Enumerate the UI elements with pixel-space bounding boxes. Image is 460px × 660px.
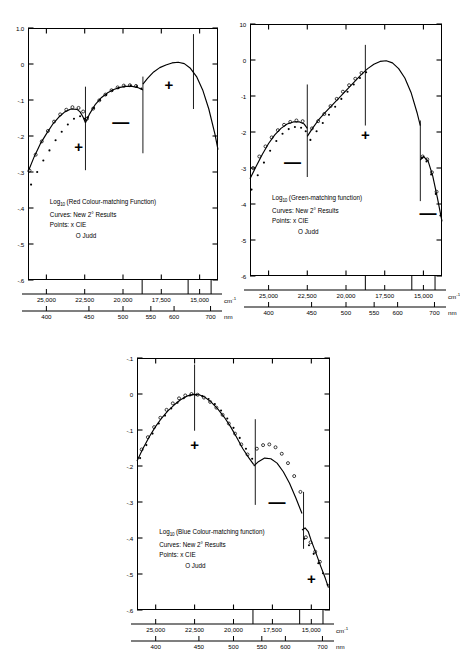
x-axis-secondary-label: 500 (228, 643, 238, 650)
caption-points-cie: x CIE (180, 551, 195, 558)
y-axis-tick-label: -.6 (113, 607, 133, 614)
polarity-marker: + (190, 437, 199, 452)
y-axis-tick-label: 0 (113, 391, 133, 398)
x-axis-primary-label: 17,500 (263, 626, 282, 633)
caption-log-prefix: Log (159, 528, 170, 535)
caption-curves-line: Curves: New 2° Results (159, 540, 264, 551)
x-axis-primary-label: 20,000 (224, 626, 243, 633)
caption-points-judd-line: O Judd (159, 561, 264, 572)
plot-frame-blue (137, 358, 330, 610)
x-axis-secondary-label: 450 (194, 643, 204, 650)
x-axis-secondary-unit: nm (336, 643, 345, 650)
x-axis-primary-unit-exponent: -1 (344, 626, 348, 631)
caption-curves-label: Curves: (159, 541, 182, 548)
caption-function-name: (Blue Colour-matching function) (174, 528, 264, 535)
x-axis-primary-unit-exponent: -1 (456, 292, 460, 297)
x-axis-primary-label: 22,500 (185, 626, 204, 633)
x-axis-secondary-label: 550 (257, 643, 267, 650)
caption-points-label: Points: (159, 551, 180, 558)
caption-points-judd: O Judd (185, 562, 205, 569)
plot-caption-blue: Log10 (Blue Colour-matching function)Cur… (159, 527, 264, 572)
polarity-marker: + (307, 570, 316, 585)
y-axis-tick-label: -.5 (113, 571, 133, 578)
y-axis-tick-label: -.1 (113, 355, 133, 362)
caption-points-line: Points: x CIE (159, 550, 264, 561)
x-axis-primary-unit-text: cm (336, 627, 344, 634)
x-axis-primary-label: 15,000 (302, 626, 321, 633)
x-axis-secondary-label: 600 (280, 643, 290, 650)
x-axis-primary-unit: cm-1 (336, 626, 348, 634)
y-axis-tick-label: -.3 (113, 499, 133, 506)
caption-curves-value: New 2° Results (183, 541, 226, 548)
y-axis-tick-label: -.1 (113, 427, 133, 434)
x-axis-secondary-label: 700 (317, 643, 327, 650)
x-axis-secondary-label: 400 (151, 643, 161, 650)
x-axis-primary-label: 25,000 (146, 626, 165, 633)
y-axis-tick-label: -.4 (113, 535, 133, 542)
polarity-marker: — (269, 494, 286, 511)
y-axis-tick-label: -.2 (113, 463, 133, 470)
caption-title: Log10 (Blue Colour-matching function) (159, 527, 264, 540)
